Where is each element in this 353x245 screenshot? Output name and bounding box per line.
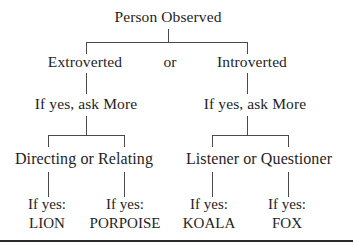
leaf-koala: If yes: KOALA [183, 195, 236, 233]
leaf-prefix: If yes: [268, 195, 306, 214]
node-introverted: Introverted [217, 54, 287, 70]
connector-questioner-down [288, 172, 289, 197]
connector-root-down [168, 29, 169, 42]
connector-introverted-down [247, 73, 248, 94]
connector-right-level3-horizontal [212, 135, 289, 136]
connector-level1-horizontal [86, 42, 248, 43]
connector-to-questioner [288, 135, 289, 147]
connector-to-introverted [247, 42, 248, 54]
leaf-fox: If yes: FOX [268, 195, 306, 233]
connector-left-level3-horizontal [48, 135, 125, 136]
leaf-animal-porpoise: PORPOISE [90, 214, 161, 233]
leaf-prefix: If yes: [90, 195, 161, 214]
node-person-observed: Person Observed [115, 9, 222, 25]
node-directing-or-relating: Directing or Relating [15, 151, 153, 167]
leaf-animal-lion: LION [28, 214, 66, 233]
connector-directing-down [48, 172, 49, 197]
node-listener-or-questioner: Listener or Questioner [186, 151, 332, 167]
connector-extroverted-down [86, 73, 87, 94]
leaf-animal-koala: KOALA [183, 214, 236, 233]
leaf-lion: If yes: LION [28, 195, 66, 233]
connector-left-ask-down [86, 116, 87, 135]
connector-listener-down [212, 172, 213, 197]
node-left-ask-more: If yes, ask More [35, 96, 137, 112]
leaf-prefix: If yes: [183, 195, 236, 214]
connector-to-directing [48, 135, 49, 147]
connector-to-relating [124, 135, 125, 147]
node-right-ask-more: If yes, ask More [204, 96, 306, 112]
connector-relating-down [124, 172, 125, 197]
leaf-animal-fox: FOX [268, 214, 306, 233]
node-extroverted: Extroverted [48, 54, 122, 70]
connector-or-text: or [163, 54, 176, 70]
connector-to-listener [212, 135, 213, 147]
connector-right-ask-down [247, 116, 248, 135]
leaf-porpoise: If yes: PORPOISE [90, 195, 161, 233]
connector-to-extroverted [86, 42, 87, 54]
leaf-prefix: If yes: [28, 195, 66, 214]
clipped-heading-remnant [40, 0, 310, 2]
bottom-divider [0, 240, 353, 242]
